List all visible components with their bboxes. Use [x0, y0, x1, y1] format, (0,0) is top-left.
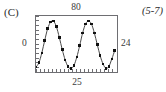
data-point [93, 32, 96, 35]
data-point [67, 65, 70, 68]
data-point [73, 64, 76, 67]
data-point [99, 54, 102, 57]
data-point [105, 67, 108, 70]
data-point [113, 49, 116, 52]
data-point [84, 23, 87, 26]
axis-top-label-wrap: 80 [0, 2, 166, 12]
data-point [102, 63, 105, 66]
data-point [49, 21, 52, 24]
data-point [96, 43, 99, 46]
axis-left-label: 0 [22, 38, 27, 48]
data-point [90, 23, 93, 26]
data-point [36, 66, 37, 69]
data-point [46, 27, 49, 30]
data-point [61, 48, 64, 51]
figure-panel: (C) (5-7) 80 25 0 24 [0, 0, 166, 92]
data-point [52, 20, 55, 23]
data-point [41, 52, 44, 55]
data-point [81, 32, 84, 35]
data-point [76, 56, 79, 59]
axis-bottom-label-wrap: 25 [0, 77, 166, 87]
axis-top-label: 80 [71, 2, 81, 12]
plot-canvas [36, 16, 117, 72]
plot-frame [35, 15, 118, 73]
axis-bottom-label: 25 [72, 77, 82, 87]
data-point [108, 65, 111, 68]
data-point [78, 44, 81, 47]
data-point [43, 39, 46, 42]
data-point [55, 25, 58, 28]
data-point [38, 61, 41, 64]
data-point [64, 59, 67, 62]
data-point [58, 36, 61, 39]
axis-right-label: 24 [121, 38, 131, 48]
data-point [111, 58, 114, 61]
data-point [87, 20, 90, 23]
data-point [70, 67, 73, 70]
